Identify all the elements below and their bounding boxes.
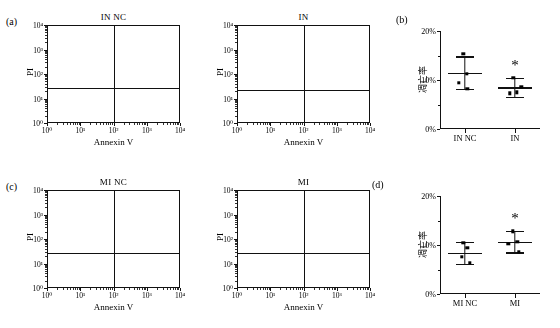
flow-plot-in-nc: IN NC Annexin V PI 10⁰10¹10²10³10⁴10⁰10¹… (47, 25, 180, 123)
y-minor-tick (235, 194, 237, 195)
y-tick-mark (44, 239, 47, 240)
x-tick-mark (180, 123, 181, 126)
x-minor-tick (157, 288, 158, 290)
x-tick-mark (370, 123, 371, 126)
x-minor-tick (100, 123, 101, 125)
y-minor-tick (235, 111, 237, 112)
x-tick-mark (304, 288, 305, 291)
y-tick-mark (437, 129, 441, 130)
y-minor-tick (438, 56, 440, 57)
y-minor-tick (45, 194, 47, 195)
x-axis-title: Annexin V (47, 302, 180, 312)
mean-bar (448, 253, 482, 254)
x-axis-title: Annexin V (237, 137, 370, 147)
y-minor-tick (45, 266, 47, 267)
x-minor-tick (90, 288, 91, 290)
panel-label-a: (a) (6, 16, 17, 27)
quadrant-hline (237, 90, 370, 91)
flow-plot-in: IN Annexin V PI 10⁰10¹10²10³10⁴10⁰10¹10²… (237, 25, 370, 123)
y-minor-tick (45, 191, 47, 192)
data-point (468, 261, 471, 264)
y-minor-tick (45, 200, 47, 201)
y-minor-tick (45, 217, 47, 218)
panel-label-b: (b) (396, 14, 408, 25)
data-point (466, 246, 469, 249)
x-minor-tick (175, 288, 176, 290)
y-minor-tick (235, 266, 237, 267)
y-minor-tick (45, 267, 47, 268)
data-point (508, 92, 511, 95)
x-minor-tick (106, 123, 107, 125)
x-minor-tick (286, 288, 287, 290)
x-tick-label: 10⁴ (365, 291, 375, 300)
y-minor-tick (235, 281, 237, 282)
y-minor-tick (235, 256, 237, 257)
y-minor-tick (235, 203, 237, 204)
y-tick-label: 10³ (33, 45, 43, 54)
x-minor-tick (314, 288, 315, 290)
data-point (465, 72, 468, 75)
y-minor-tick (235, 222, 237, 223)
y-tick-mark (44, 190, 47, 191)
x-minor-tick (263, 123, 264, 125)
error-bar-cap (506, 252, 524, 253)
x-tick-mark (370, 288, 371, 291)
error-bar-cap (456, 56, 474, 57)
y-minor-tick (235, 191, 237, 192)
y-minor-tick (235, 200, 237, 201)
y-minor-tick (45, 106, 47, 107)
x-tick-mark (237, 123, 238, 126)
y-minor-tick (45, 252, 47, 253)
y-tick-label: 10⁴ (33, 186, 43, 195)
x-minor-tick (353, 288, 354, 290)
y-minor-tick (235, 102, 237, 103)
x-minor-tick (257, 288, 258, 290)
y-tick-label: 10% (421, 76, 436, 85)
y-minor-tick (235, 224, 237, 225)
x-axis-line (440, 293, 540, 294)
y-tick-mark (437, 80, 441, 81)
x-tick-mark (180, 288, 181, 291)
y-minor-tick (45, 256, 47, 257)
y-tick-mark (234, 99, 237, 100)
y-minor-tick (235, 32, 237, 33)
y-minor-tick (235, 106, 237, 107)
x-minor-tick (293, 123, 294, 125)
x-tick-mark (237, 288, 238, 291)
y-minor-tick (45, 195, 47, 196)
y-minor-tick (45, 244, 47, 245)
quadrant-vline (304, 190, 305, 288)
data-point (457, 81, 460, 84)
data-point (462, 52, 465, 55)
x-minor-tick (134, 123, 135, 125)
x-minor-tick (265, 288, 266, 290)
y-minor-tick (45, 265, 47, 266)
y-minor-tick (235, 241, 237, 242)
x-minor-tick (75, 123, 76, 125)
x-category-label: IN NC (454, 133, 477, 143)
y-minor-tick (45, 27, 47, 28)
y-minor-tick (45, 101, 47, 102)
y-minor-tick (45, 203, 47, 204)
y-minor-tick (235, 79, 237, 80)
data-point (517, 250, 520, 253)
y-minor-tick (45, 224, 47, 225)
data-point (461, 241, 464, 244)
y-minor-tick (45, 111, 47, 112)
y-minor-tick (235, 269, 237, 270)
x-tick-mark (80, 288, 81, 291)
x-minor-tick (293, 288, 294, 290)
x-minor-tick (170, 288, 171, 290)
x-minor-tick (365, 288, 366, 290)
x-minor-tick (100, 288, 101, 290)
y-minor-tick (45, 197, 47, 198)
y-minor-tick (45, 269, 47, 270)
x-minor-tick (253, 288, 254, 290)
y-minor-tick (235, 59, 237, 60)
x-minor-tick (67, 123, 68, 125)
x-minor-tick (173, 288, 174, 290)
x-minor-tick (124, 288, 125, 290)
x-tick-mark (80, 123, 81, 126)
x-tick-label: 10⁴ (175, 291, 185, 300)
x-tick-mark (337, 288, 338, 291)
